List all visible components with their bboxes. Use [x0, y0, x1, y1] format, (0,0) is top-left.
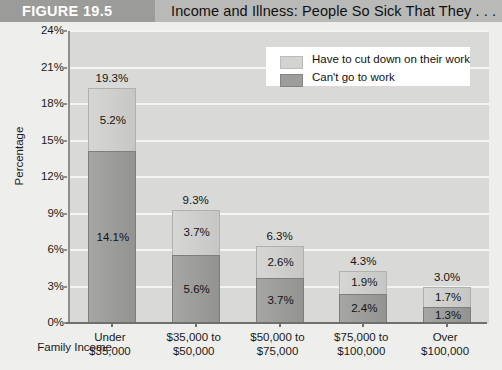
bar-segment-cant-work[interactable]: 3.7%	[256, 278, 304, 323]
bar-total-label: 4.3%	[333, 255, 393, 267]
bar-group[interactable]: 4.3%1.9%2.4%	[339, 271, 387, 323]
bar-segment-cut-down[interactable]: 2.6%	[256, 246, 304, 278]
bar-segment-cant-work[interactable]: 14.1%	[88, 151, 136, 323]
y-tick-label: 0%	[6, 316, 64, 328]
x-tick-label-line: $100,000	[389, 344, 501, 358]
x-axis: Under$35,000$35,000 to$50,000$50,000 to$…	[68, 326, 487, 366]
bar-group[interactable]: 19.3%5.2%14.1%	[88, 88, 136, 323]
bar-value-label: 1.9%	[340, 276, 388, 288]
chart-legend: Have to cut down on their workCan't go t…	[266, 47, 470, 86]
y-tick-mark	[62, 213, 67, 215]
y-tick-mark	[62, 140, 67, 142]
y-tick-mark	[62, 67, 67, 69]
figure-number-label: FIGURE 19.5	[22, 3, 112, 19]
bar-segment-cut-down[interactable]: 1.9%	[339, 271, 387, 294]
bar-total-label: 19.3%	[82, 72, 142, 84]
bar-value-label: 2.6%	[257, 256, 305, 268]
figure-title: Income and Illness: People So Sick That …	[171, 3, 496, 19]
bar-total-label: 6.3%	[250, 230, 310, 242]
x-tick-label: Over$100,000	[389, 330, 501, 358]
figure-header-band: FIGURE 19.5 Income and Illness: People S…	[0, 0, 502, 22]
legend-label: Can't go to work	[312, 71, 395, 83]
bar-value-label: 1.7%	[424, 291, 472, 303]
bar-value-label: 1.3%	[424, 309, 472, 321]
y-tick-mark	[62, 30, 67, 32]
bar-group[interactable]: 3.0%1.7%1.3%	[423, 287, 471, 323]
bar-segment-cut-down[interactable]: 1.7%	[423, 287, 471, 308]
bar-group[interactable]: 6.3%2.6%3.7%	[256, 246, 304, 323]
legend-swatch-light	[280, 56, 303, 69]
x-tick-label-line: Over	[389, 330, 501, 344]
y-tick-label: 6%	[6, 243, 64, 255]
bar-segment-cant-work[interactable]: 2.4%	[339, 294, 387, 323]
bar-value-label: 5.2%	[89, 114, 137, 126]
x-axis-title: Family Income	[2, 341, 112, 353]
bar-total-label: 3.0%	[417, 271, 477, 283]
y-axis: 0%3%6%9%12%15%18%21%24%	[0, 31, 64, 323]
y-tick-mark	[62, 286, 67, 288]
figure-container: FIGURE 19.5 Income and Illness: People S…	[0, 0, 502, 370]
y-tick-mark	[62, 249, 67, 251]
bar-value-label: 3.7%	[257, 294, 305, 306]
y-tick-label: 3%	[6, 280, 64, 292]
bar-segment-cut-down[interactable]: 3.7%	[172, 210, 220, 255]
bar-group[interactable]: 9.3%3.7%5.6%	[172, 210, 220, 323]
bar-segment-cant-work[interactable]: 1.3%	[423, 307, 471, 323]
y-tick-mark	[62, 176, 67, 178]
y-tick-mark	[62, 103, 67, 105]
bar-value-label: 2.4%	[340, 302, 388, 314]
bar-total-label: 9.3%	[166, 194, 226, 206]
x-axis-baseline	[66, 322, 487, 324]
y-tick-label: 24%	[6, 24, 64, 36]
gridline	[70, 30, 489, 32]
y-tick-label: 21%	[6, 61, 64, 73]
bar-value-label: 3.7%	[173, 226, 221, 238]
bar-segment-cut-down[interactable]: 5.2%	[88, 88, 136, 151]
bar-segment-cant-work[interactable]: 5.6%	[172, 255, 220, 323]
y-axis-title: Percentage	[13, 101, 25, 211]
legend-label: Have to cut down on their work	[312, 53, 470, 65]
bar-value-label: 14.1%	[89, 231, 137, 243]
legend-swatch-dark	[280, 74, 303, 87]
bar-value-label: 5.6%	[173, 283, 221, 295]
